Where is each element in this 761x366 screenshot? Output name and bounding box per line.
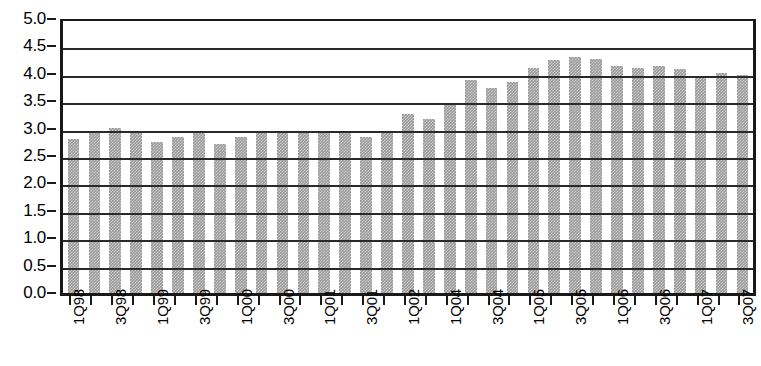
x-axis-label-slot: 1Q01 bbox=[311, 307, 332, 365]
gridline bbox=[63, 158, 753, 160]
gridline bbox=[63, 131, 753, 133]
x-axis-label-slot: 3Q99 bbox=[185, 307, 206, 365]
x-axis-label-slot bbox=[499, 307, 520, 365]
x-axis-tick-label: 3Q07 bbox=[739, 289, 756, 325]
x-axis-label-slot: 3Q98 bbox=[102, 307, 123, 365]
gridline bbox=[63, 213, 753, 215]
gridline bbox=[63, 268, 753, 270]
y-axis-tick bbox=[47, 45, 56, 47]
bar bbox=[653, 66, 665, 295]
x-axis-label-slot bbox=[541, 307, 562, 365]
x-axis-label-slot bbox=[624, 307, 645, 365]
x-axis-labels: 1Q983Q981Q993Q991Q003Q001Q013Q011Q021Q04… bbox=[60, 307, 750, 365]
bar bbox=[632, 68, 644, 295]
x-axis-label-slot bbox=[415, 307, 436, 365]
x-axis-label-slot: 3Q04 bbox=[478, 307, 499, 365]
y-axis-tick-label: 3.5 bbox=[23, 91, 46, 111]
plot-area bbox=[60, 19, 756, 295]
y-axis-tick-label: 0.5 bbox=[23, 256, 46, 276]
x-axis-label-slot bbox=[81, 307, 102, 365]
gridline bbox=[63, 48, 753, 50]
gridline bbox=[63, 240, 753, 242]
x-axis-label-slot bbox=[708, 307, 729, 365]
gridline bbox=[63, 76, 753, 78]
y-axis-tick-label: 1.0 bbox=[23, 228, 46, 248]
y-axis-tick-label: 2.0 bbox=[23, 173, 46, 193]
y-axis-tick bbox=[47, 182, 56, 184]
x-axis-label-slot: 3Q07 bbox=[729, 307, 750, 365]
bar bbox=[444, 104, 456, 295]
gridline bbox=[63, 103, 753, 105]
y-axis-tick bbox=[47, 210, 56, 212]
x-axis-label-slot: 1Q02 bbox=[395, 307, 416, 365]
bar bbox=[528, 68, 540, 295]
bar bbox=[590, 59, 602, 295]
x-axis-label-slot: 1Q05 bbox=[520, 307, 541, 365]
x-axis-label-slot: 3Q06 bbox=[645, 307, 666, 365]
y-axis-tick bbox=[47, 155, 56, 157]
x-axis-label-slot: 1Q99 bbox=[144, 307, 165, 365]
x-axis-label-slot: 1Q00 bbox=[227, 307, 248, 365]
y-axis-tick bbox=[47, 237, 56, 239]
x-axis-label-slot bbox=[165, 307, 186, 365]
x-axis-label-slot: 3Q00 bbox=[269, 307, 290, 365]
bar bbox=[214, 144, 226, 295]
bar bbox=[611, 66, 623, 295]
x-axis-label-slot: 3Q01 bbox=[353, 307, 374, 365]
bar bbox=[548, 60, 560, 295]
y-axis-tick-label: 4.5 bbox=[23, 36, 46, 56]
y-axis-tick-label: 1.5 bbox=[23, 201, 46, 221]
bar bbox=[172, 137, 184, 295]
x-axis-label-slot: 1Q98 bbox=[60, 307, 81, 365]
x-axis-label-slot bbox=[583, 307, 604, 365]
x-axis-label-slot bbox=[332, 307, 353, 365]
x-axis-label-slot bbox=[666, 307, 687, 365]
y-axis-tick bbox=[47, 265, 56, 267]
bar bbox=[716, 73, 728, 295]
bar bbox=[465, 80, 477, 295]
x-axis-label-slot: 1Q06 bbox=[604, 307, 625, 365]
x-axis-label-slot bbox=[206, 307, 227, 365]
x-axis-label-slot: 3Q05 bbox=[562, 307, 583, 365]
y-axis-tick-label: 2.5 bbox=[23, 146, 46, 166]
y-axis-tick bbox=[47, 18, 56, 20]
bar bbox=[151, 142, 163, 295]
y-axis-tick bbox=[47, 73, 56, 75]
bar bbox=[486, 88, 498, 295]
x-axis-label-slot bbox=[123, 307, 144, 365]
x-axis-label-slot bbox=[290, 307, 311, 365]
y-axis-tick-label: 5.0 bbox=[23, 9, 46, 29]
x-axis-label-slot: 1Q07 bbox=[687, 307, 708, 365]
y-axis-tick-label: 3.0 bbox=[23, 119, 46, 139]
x-axis-label-slot bbox=[457, 307, 478, 365]
y-axis-tick bbox=[47, 128, 56, 130]
bar bbox=[109, 128, 121, 295]
bar bbox=[507, 82, 519, 295]
bar bbox=[235, 137, 247, 295]
x-axis-label-slot: 1Q04 bbox=[436, 307, 457, 365]
bar bbox=[569, 57, 581, 295]
y-axis-tick bbox=[47, 100, 56, 102]
y-axis-tick-label: 0.0 bbox=[23, 283, 46, 303]
x-axis-label-slot bbox=[374, 307, 395, 365]
bar bbox=[360, 137, 372, 295]
y-axis-tick bbox=[47, 292, 56, 294]
bar-chart: 0.00.51.01.52.02.53.03.54.04.55.0 1Q983Q… bbox=[0, 0, 761, 366]
y-axis: 0.00.51.01.52.02.53.03.54.04.55.0 bbox=[0, 0, 58, 366]
gridline bbox=[63, 185, 753, 187]
bar bbox=[68, 139, 80, 295]
y-axis-tick-label: 4.0 bbox=[23, 64, 46, 84]
x-axis-label-slot bbox=[248, 307, 269, 365]
